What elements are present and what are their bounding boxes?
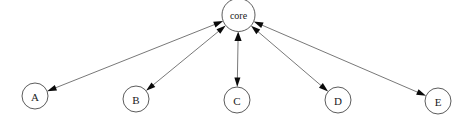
arrowhead-to-a [47, 85, 57, 91]
arrowhead-to-e [416, 89, 426, 96]
node-a[interactable]: A [22, 83, 48, 109]
edge-core-c [237, 37, 238, 82]
arrowheads-layer [47, 21, 426, 96]
arrowhead-to-c [234, 77, 240, 87]
node-b-label: B [132, 94, 139, 106]
node-b[interactable]: B [123, 86, 149, 112]
node-d[interactable]: D [325, 87, 351, 113]
edge-core-b [150, 29, 222, 88]
node-e-label: E [435, 96, 442, 108]
edge-core-a [52, 23, 218, 89]
nodes-layer: coreABCDE [22, 0, 451, 114]
arrowhead-to-b [146, 82, 155, 90]
node-core-label: core [230, 10, 248, 21]
arrowhead-to-core-from-b [216, 25, 225, 33]
edge-core-e [258, 24, 421, 94]
node-e[interactable]: E [425, 88, 451, 114]
node-a-label: A [31, 91, 39, 103]
diagram-canvas: coreABCDE [0, 0, 471, 124]
arrowhead-to-core-from-a [213, 21, 223, 27]
edge-core-d [255, 29, 324, 88]
node-d-label: D [334, 95, 342, 107]
arrowhead-to-core-from-c [234, 31, 241, 41]
node-c[interactable]: C [224, 87, 250, 113]
arrowhead-to-core-from-e [254, 22, 264, 29]
node-c-label: C [233, 95, 240, 107]
graph-svg: coreABCDE [0, 0, 471, 124]
node-core[interactable]: core [222, 0, 255, 32]
